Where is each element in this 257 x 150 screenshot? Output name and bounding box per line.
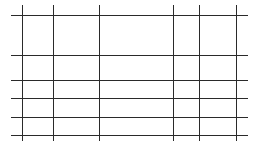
horizontal-grid-line-1 (11, 15, 248, 16)
horizontal-grid-line-2 (11, 55, 248, 56)
vertical-grid-line-2 (53, 5, 54, 141)
horizontal-grid-line-5 (11, 117, 248, 118)
horizontal-grid-line-6 (11, 135, 248, 136)
vertical-grid-line-1 (22, 5, 23, 141)
horizontal-grid-line-4 (11, 98, 248, 99)
vertical-grid-line-4 (173, 5, 174, 141)
horizontal-grid-line-3 (11, 80, 248, 81)
empty-table-grid (0, 0, 257, 150)
vertical-grid-line-5 (199, 5, 200, 141)
vertical-grid-line-3 (99, 5, 100, 141)
vertical-grid-line-6 (236, 5, 237, 141)
